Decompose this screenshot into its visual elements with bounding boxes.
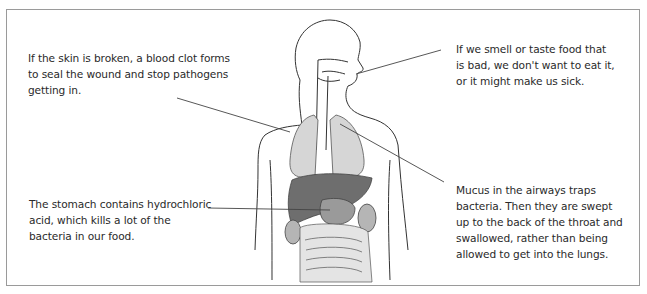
leader-smell-taste	[356, 50, 441, 74]
stomach	[320, 198, 355, 224]
kidney-left	[285, 220, 301, 244]
leader-skin	[177, 98, 290, 132]
label-skin-defence: If the skin is broken, a blood clot form…	[28, 50, 233, 98]
label-mucus-defence: Mucus in the airways traps bacteria. The…	[456, 182, 626, 262]
label-smell-taste-defence: If we smell or taste food that is bad, w…	[456, 41, 616, 89]
intestines	[300, 224, 372, 282]
label-stomach-defence: The stomach contains hydrochloric acid, …	[29, 196, 215, 244]
